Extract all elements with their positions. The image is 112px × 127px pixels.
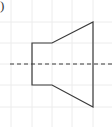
solid-profile-diagram — [0, 0, 112, 127]
